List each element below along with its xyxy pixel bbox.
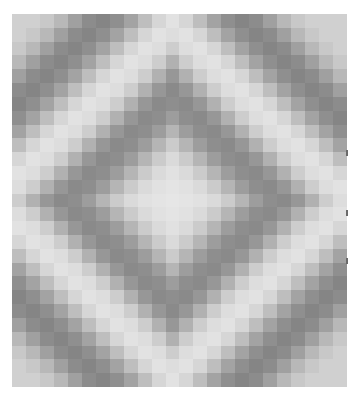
quilt-square xyxy=(221,359,235,373)
edge-mark xyxy=(346,258,348,264)
quilt-square xyxy=(96,359,110,373)
quilt-square xyxy=(138,263,152,277)
quilt-square xyxy=(96,373,110,387)
quilt-square xyxy=(40,194,54,208)
quilt-square xyxy=(249,373,263,387)
quilt-square xyxy=(179,83,193,97)
quilt-square xyxy=(263,152,277,166)
quilt-square xyxy=(54,14,68,28)
quilt-square xyxy=(179,359,193,373)
quilt-square xyxy=(249,166,263,180)
quilt-square xyxy=(207,276,221,290)
quilt-square xyxy=(277,180,291,194)
quilt-square xyxy=(221,249,235,263)
quilt-square xyxy=(138,83,152,97)
quilt-square xyxy=(82,14,96,28)
quilt-square xyxy=(333,290,347,304)
quilt-square xyxy=(193,55,207,69)
quilt-square xyxy=(263,304,277,318)
quilt-square xyxy=(291,207,305,221)
quilt-square xyxy=(152,14,166,28)
quilt-square xyxy=(277,207,291,221)
quilt-square xyxy=(263,276,277,290)
quilt-square xyxy=(263,138,277,152)
quilt-square xyxy=(291,346,305,360)
quilt-square xyxy=(138,180,152,194)
quilt-square xyxy=(96,14,110,28)
quilt-square xyxy=(68,97,82,111)
quilt-square xyxy=(68,290,82,304)
quilt-square xyxy=(319,235,333,249)
quilt-square xyxy=(54,373,68,387)
quilt-square xyxy=(40,97,54,111)
quilt-square xyxy=(249,180,263,194)
quilt-square xyxy=(138,138,152,152)
quilt-square xyxy=(82,332,96,346)
quilt-square xyxy=(96,69,110,83)
quilt-square xyxy=(40,332,54,346)
quilt-square xyxy=(152,373,166,387)
quilt-square xyxy=(305,152,319,166)
quilt-square xyxy=(124,194,138,208)
quilt-square xyxy=(305,249,319,263)
quilt-square xyxy=(319,249,333,263)
quilt-square xyxy=(249,235,263,249)
quilt-square xyxy=(319,318,333,332)
quilt-square xyxy=(291,263,305,277)
quilt-square xyxy=(221,207,235,221)
quilt-square xyxy=(138,125,152,139)
quilt-square xyxy=(110,359,124,373)
quilt-square xyxy=(333,276,347,290)
quilt-square xyxy=(235,263,249,277)
quilt-square xyxy=(291,69,305,83)
quilt-square xyxy=(277,83,291,97)
quilt-square xyxy=(166,235,180,249)
quilt-square xyxy=(26,290,40,304)
quilt-square xyxy=(110,166,124,180)
edge-mark xyxy=(346,150,348,156)
quilt-square xyxy=(179,207,193,221)
quilt-square xyxy=(40,359,54,373)
quilt-square xyxy=(291,97,305,111)
quilt-square xyxy=(54,359,68,373)
quilt-square xyxy=(26,304,40,318)
quilt-square xyxy=(263,180,277,194)
quilt-square xyxy=(68,111,82,125)
quilt-square xyxy=(249,346,263,360)
quilt-square xyxy=(12,263,26,277)
quilt-square xyxy=(263,346,277,360)
quilt-square xyxy=(291,42,305,56)
quilt-square xyxy=(249,138,263,152)
quilt-square xyxy=(221,111,235,125)
quilt-square xyxy=(291,180,305,194)
quilt-square xyxy=(291,28,305,42)
quilt-square xyxy=(249,152,263,166)
quilt-square xyxy=(26,249,40,263)
quilt-square xyxy=(152,346,166,360)
quilt-square xyxy=(319,83,333,97)
quilt-square xyxy=(291,304,305,318)
quilt-square xyxy=(319,14,333,28)
quilt-square xyxy=(333,304,347,318)
quilt-square xyxy=(12,180,26,194)
quilt-square xyxy=(221,138,235,152)
quilt-square xyxy=(26,221,40,235)
quilt-square xyxy=(166,55,180,69)
quilt-square xyxy=(179,332,193,346)
quilt-square xyxy=(138,69,152,83)
edge-mark xyxy=(346,210,348,216)
quilt-square xyxy=(249,249,263,263)
quilt-square xyxy=(12,83,26,97)
quilt-square xyxy=(207,194,221,208)
quilt-square xyxy=(305,180,319,194)
quilt-square xyxy=(277,125,291,139)
quilt-square xyxy=(54,152,68,166)
quilt-square xyxy=(207,111,221,125)
quilt-square xyxy=(152,263,166,277)
quilt-square xyxy=(110,28,124,42)
quilt-square xyxy=(277,194,291,208)
quilt-square xyxy=(152,304,166,318)
quilt-square xyxy=(152,180,166,194)
quilt-square xyxy=(263,194,277,208)
quilt-square xyxy=(221,166,235,180)
